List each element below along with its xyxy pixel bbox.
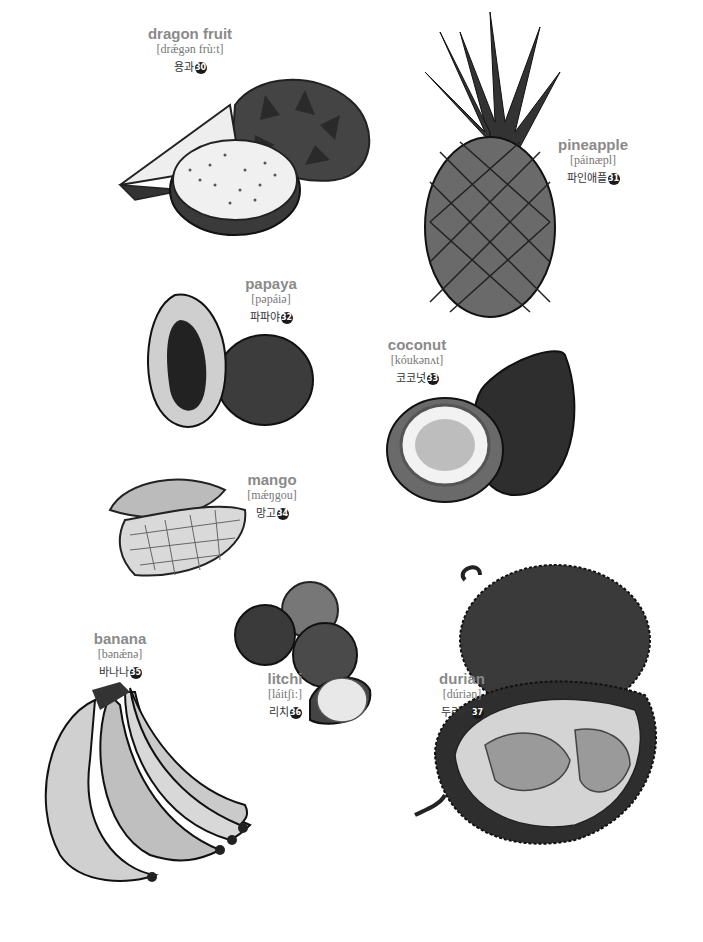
pronunciation: [páinæpl] <box>548 154 638 168</box>
mango-illustration <box>105 470 255 580</box>
korean-word: 망고34 <box>256 508 289 521</box>
english-word: coconut <box>377 336 457 353</box>
number-badge: 31 <box>608 173 620 185</box>
korean-text: 코코넛 <box>396 373 426 386</box>
banana-illustration <box>30 680 260 890</box>
english-word: mango <box>237 471 307 488</box>
korean-word: 코코넛33 <box>396 373 439 386</box>
english-word: pineapple <box>548 136 638 153</box>
korean-text: 망고 <box>256 508 276 521</box>
korean-word: 용과30 <box>174 62 207 75</box>
entry-mango: mango [mǽŋgou] 망고34 <box>237 471 307 521</box>
pronunciation: [mǽŋgou] <box>237 489 307 503</box>
pronunciation: [pəpáiə] <box>236 293 306 307</box>
entry-pineapple: pineapple [páinæpl] 파인애플31 <box>548 136 638 186</box>
english-word: banana <box>85 630 155 647</box>
korean-text: 리치 <box>269 707 289 720</box>
korean-word: 두리안37 <box>441 707 484 720</box>
pronunciation: [dúriən] <box>427 688 497 702</box>
korean-word: 바나나35 <box>99 667 142 680</box>
korean-word: 파파야32 <box>250 312 293 325</box>
number-badge: 35 <box>130 667 142 679</box>
korean-text: 파파야 <box>250 312 280 325</box>
entry-litchi: litchi [láitʃi:] 리치36 <box>255 670 315 720</box>
korean-word: 파인애플31 <box>567 173 620 186</box>
korean-text: 바나나 <box>99 667 129 680</box>
number-badge: 32 <box>281 312 293 324</box>
english-word: durian <box>427 670 497 687</box>
pronunciation: [láitʃi:] <box>255 688 315 702</box>
korean-text: 용과 <box>174 62 194 75</box>
number-badge: 33 <box>427 373 439 385</box>
pronunciation: [drǽgən frù:t] <box>135 43 245 57</box>
english-word: papaya <box>236 275 306 292</box>
dragon-fruit-illustration <box>115 75 380 245</box>
number-badge: 36 <box>290 707 302 719</box>
entry-dragon-fruit: dragon fruit [drǽgən frù:t] 용과30 <box>135 25 245 75</box>
korean-text: 두리안 <box>441 707 471 720</box>
pronunciation: [kóukənʌt] <box>377 354 457 368</box>
pronunciation: [bənǽnə] <box>85 648 155 662</box>
number-badge: 37 <box>472 707 484 719</box>
entry-banana: banana [bənǽnə] 바나나35 <box>85 630 155 680</box>
entry-papaya: papaya [pəpáiə] 파파야32 <box>236 275 306 325</box>
entry-coconut: coconut [kóukənʌt] 코코넛33 <box>377 336 457 386</box>
korean-word: 리치36 <box>269 707 302 720</box>
entry-durian: durian [dúriən] 두리안37 <box>427 670 497 720</box>
pineapple-illustration <box>420 12 560 322</box>
number-badge: 30 <box>195 62 207 74</box>
korean-text: 파인애플 <box>567 173 607 186</box>
english-word: dragon fruit <box>135 25 245 42</box>
number-badge: 34 <box>277 508 289 520</box>
english-word: litchi <box>255 670 315 687</box>
